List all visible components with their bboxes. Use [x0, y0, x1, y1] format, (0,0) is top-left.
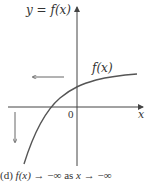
caption-as: as: [64, 169, 73, 181]
figure-caption: (d) f(x) → −∞ as x → −∞: [0, 166, 156, 184]
caption-x: x: [76, 169, 81, 181]
caption-limit: −∞: [47, 169, 61, 181]
caption-limit2: −∞: [97, 169, 111, 181]
caption-arrow1: →: [34, 169, 45, 181]
x-axis-label: x: [138, 108, 145, 121]
caption-f: f(x): [16, 169, 31, 181]
function-curve: [24, 74, 137, 164]
y-axis-label: y = f(x): [25, 3, 71, 17]
graph: y = f(x) f(x) 0 x: [0, 0, 156, 184]
origin-label: 0: [68, 108, 74, 120]
caption-part: (d): [0, 169, 13, 181]
caption-arrow2: →: [84, 169, 95, 181]
curve-label: f(x): [91, 61, 113, 75]
